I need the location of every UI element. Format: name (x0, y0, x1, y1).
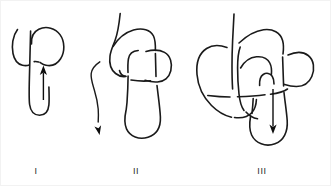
knot-iii-strands (197, 14, 314, 145)
knot-iii-arrow (269, 89, 276, 134)
knot-figure-root: I II III (0, 0, 331, 186)
knot-iii-middle-horizontal-right (238, 95, 266, 97)
panel-label-i: I (34, 166, 37, 176)
panel-iii-knot-drawing (0, 0, 331, 186)
knot-iii-inner-left-strand (238, 47, 244, 111)
knot-iii-right-lobe (285, 53, 314, 87)
knot-iii-inner-arch (241, 57, 272, 75)
knot-iii-top-strand (232, 14, 234, 89)
knot-iii-left-lobe (197, 46, 232, 117)
knot-iii-right-descending (283, 57, 284, 86)
knot-iii-middle-horizontal (208, 96, 230, 98)
panel-label-ii: II (133, 166, 139, 176)
knot-iii-upper-arch (239, 30, 283, 54)
panel-label-iii: III (257, 166, 266, 176)
knot-iii-inner-hook (260, 73, 274, 85)
knot-iii-bottom-left-strand (252, 99, 253, 114)
